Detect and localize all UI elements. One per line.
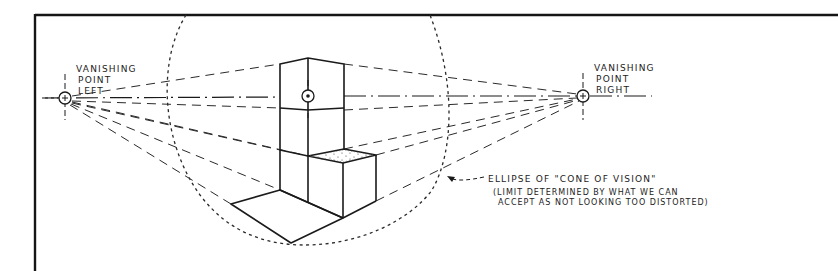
floor-plane — [231, 190, 343, 243]
frame-border — [35, 14, 838, 271]
label-line: RIGHT — [596, 85, 630, 95]
tall-tower — [280, 58, 344, 218]
label-line: VANISHING — [76, 64, 137, 74]
vanishing-point-right-marker — [577, 73, 589, 120]
label-line: POINT — [596, 74, 629, 84]
label-line: LEFT — [78, 86, 104, 96]
ellipse-title: ELLIPSE OF "CONE OF VISION" — [488, 174, 657, 184]
perspective-diagram: VANISHING POINT LEFT VANISHING POINT RIG… — [0, 0, 838, 271]
label-line: VANISHING — [594, 63, 655, 73]
label-line: POINT — [78, 75, 111, 85]
ellipse-note-line1: (LIMIT DETERMINED BY WHAT WE CAN — [493, 188, 679, 197]
label-vanishing-point-right: VANISHING POINT RIGHT — [594, 63, 655, 95]
ellipse-note-line2: ACCEPT AS NOT LOOKING TOO DISTORTED) — [498, 198, 709, 207]
convergence-lines-left — [70, 64, 308, 204]
ellipse-pointer-arrow — [447, 176, 484, 182]
vanishing-point-left-marker — [45, 74, 71, 120]
label-cone-of-vision: ELLIPSE OF "CONE OF VISION" (LIMIT DETER… — [488, 174, 709, 207]
horizon-line — [42, 96, 652, 98]
